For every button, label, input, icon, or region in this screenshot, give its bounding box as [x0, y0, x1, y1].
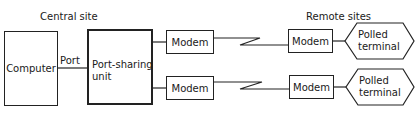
modem-remote-2-label: Modem — [293, 82, 330, 93]
modem-remote-2: Modem — [289, 75, 334, 99]
comm-link-2 — [214, 82, 289, 89]
modem-remote-1-label: Modem — [292, 36, 329, 47]
comm-link-1 — [214, 38, 288, 45]
computer-box: Computer — [4, 31, 58, 106]
terminal-1-label-1: Polled — [358, 29, 388, 40]
port-label: Port — [60, 55, 80, 66]
terminal-1-label-2: terminal — [358, 41, 400, 52]
modem-remote-1: Modem — [288, 29, 333, 53]
port-sharing-label-2: unit — [92, 71, 111, 82]
central-site-label: Central site — [40, 11, 98, 22]
modem-central-1: Modem — [166, 30, 214, 54]
port-sharing-unit-box: Port-sharing unit — [87, 29, 153, 105]
modem-central-2: Modem — [166, 76, 214, 100]
computer-label: Computer — [6, 63, 56, 74]
remote-sites-label: Remote sites — [306, 11, 371, 22]
modem-central-2-label: Modem — [172, 83, 209, 94]
terminal-2-label-1: Polled — [359, 75, 389, 86]
modem-central-1-label: Modem — [172, 37, 209, 48]
terminal-2-label-2: terminal — [359, 87, 401, 98]
port-sharing-label-1: Port-sharing — [92, 59, 153, 70]
